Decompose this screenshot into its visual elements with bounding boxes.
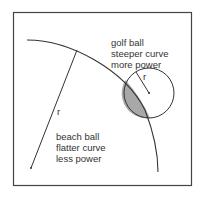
frame-border [14, 13, 192, 186]
curvature-diagram: golf ball steeper curve more power r r b… [0, 0, 205, 198]
golf-ball-curve-label: steeper curve [111, 48, 169, 59]
beach-ball-power-label: less power [56, 153, 101, 164]
beach-ball-center-dot [30, 167, 32, 169]
golf-ball-power-label: more power [111, 59, 161, 70]
beach-ball-curve-label: flatter curve [56, 142, 106, 153]
golf-ball-center-dot [148, 92, 150, 94]
beach-ball-radius-label: r [57, 106, 60, 117]
golf-ball-radius-label: r [143, 71, 146, 82]
beach-ball-label: beach ball [56, 131, 99, 142]
golf-ball-label: golf ball [111, 37, 144, 48]
